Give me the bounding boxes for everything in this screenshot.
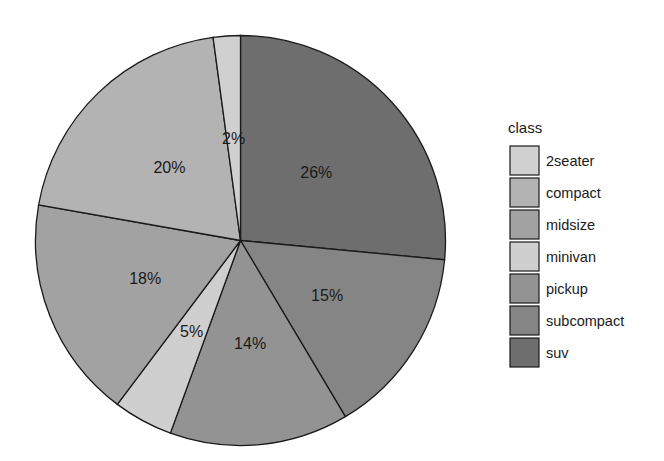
legend-swatch: [510, 306, 539, 335]
pie-label-subcompact: 15%: [311, 287, 343, 304]
pie-label-compact: 20%: [153, 159, 185, 176]
legend-label: minivan: [546, 249, 596, 265]
legend-item-2seater: 2seater: [510, 146, 595, 175]
legend-item-subcompact: subcompact: [510, 306, 624, 335]
legend-swatch: [510, 242, 539, 271]
legend-label: subcompact: [546, 313, 624, 329]
legend-label: pickup: [546, 281, 588, 297]
legend-item-minivan: minivan: [510, 242, 596, 271]
legend-swatch: [510, 274, 539, 303]
legend: class 2seatercompactmidsizeminivanpickup…: [508, 119, 624, 367]
pie-slice-suv: [241, 36, 446, 260]
legend-swatch: [510, 146, 539, 175]
pie-label-suv: 26%: [300, 164, 332, 181]
legend-item-compact: compact: [510, 178, 601, 207]
legend-swatch: [510, 178, 539, 207]
legend-label: suv: [546, 345, 569, 361]
legend-item-suv: suv: [510, 338, 569, 367]
pie-label-pickup: 14%: [234, 335, 266, 352]
legend-swatch: [510, 210, 539, 239]
pie-slice-compact: [39, 37, 241, 240]
pie-slices: [35, 36, 445, 446]
legend-item-midsize: midsize: [510, 210, 595, 239]
legend-item-pickup: pickup: [510, 274, 588, 303]
pie-label-minivan: 5%: [180, 323, 203, 340]
legend-swatch: [510, 338, 539, 367]
legend-label: 2seater: [546, 153, 595, 169]
legend-title: class: [508, 119, 542, 136]
pie-label-midsize: 18%: [129, 270, 161, 287]
legend-label: compact: [546, 185, 601, 201]
pie-label-2seater: 2%: [222, 130, 245, 147]
pie-chart: 26%15%14%5%18%20%2% class 2seatercompact…: [0, 0, 664, 461]
legend-label: midsize: [546, 217, 595, 233]
